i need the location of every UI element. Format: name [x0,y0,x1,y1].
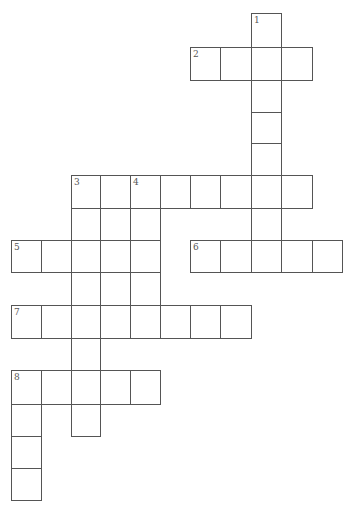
crossword-cell[interactable] [281,175,313,209]
crossword-cell[interactable] [71,404,101,437]
crossword-cell[interactable] [71,272,101,306]
crossword-cell[interactable] [41,305,72,339]
crossword-cell[interactable] [130,208,161,241]
crossword-cell[interactable] [312,240,343,273]
crossword-cell[interactable] [71,338,101,371]
crossword-cell[interactable] [251,175,282,209]
crossword-cell[interactable] [41,240,72,273]
crossword-cell[interactable] [71,208,101,241]
crossword-cell[interactable]: 5 [11,240,42,273]
crossword-cell[interactable]: 7 [11,305,42,339]
clue-number: 5 [14,242,20,252]
crossword-cell[interactable] [100,370,131,405]
crossword-cell[interactable] [251,47,282,81]
crossword-cell[interactable] [100,305,131,339]
crossword-grid: 12345678 [0,0,349,512]
crossword-cell[interactable] [11,436,42,469]
crossword-cell[interactable] [100,272,131,306]
crossword-cell[interactable] [190,175,221,209]
crossword-cell[interactable]: 2 [190,47,221,81]
clue-number: 8 [14,372,20,382]
crossword-cell[interactable] [251,143,282,176]
crossword-cell[interactable] [41,370,72,405]
crossword-cell[interactable] [220,175,252,209]
crossword-cell[interactable]: 6 [190,240,221,273]
crossword-cell[interactable] [130,272,161,306]
crossword-cell[interactable] [130,305,161,339]
crossword-cell[interactable]: 8 [11,370,42,405]
crossword-cell[interactable] [251,208,282,241]
crossword-cell[interactable] [11,468,42,501]
crossword-cell[interactable] [281,240,313,273]
crossword-cell[interactable]: 1 [251,13,282,48]
crossword-cell[interactable] [160,175,191,209]
clue-number: 4 [133,177,139,187]
crossword-cell[interactable] [251,112,282,144]
clue-number: 7 [14,307,20,317]
crossword-cell[interactable] [251,240,282,273]
clue-number: 1 [254,15,260,25]
crossword-cell[interactable] [100,175,131,209]
clue-number: 3 [74,177,80,187]
crossword-cell[interactable]: 3 [71,175,101,209]
crossword-cell[interactable] [71,305,101,339]
crossword-cell[interactable] [130,370,161,405]
crossword-cell[interactable] [11,404,42,437]
crossword-cell[interactable] [281,47,313,81]
crossword-cell[interactable] [71,370,101,405]
crossword-cell[interactable] [220,240,252,273]
crossword-cell[interactable] [130,240,161,273]
crossword-cell[interactable] [160,305,191,339]
crossword-cell[interactable] [251,80,282,113]
crossword-cell[interactable] [100,208,131,241]
crossword-cell[interactable] [220,305,252,339]
crossword-cell[interactable] [190,305,221,339]
crossword-cell[interactable] [220,47,252,81]
crossword-cell[interactable] [71,240,101,273]
clue-number: 6 [193,242,199,252]
crossword-cell[interactable]: 4 [130,175,161,209]
crossword-cell[interactable] [100,240,131,273]
clue-number: 2 [193,49,199,59]
